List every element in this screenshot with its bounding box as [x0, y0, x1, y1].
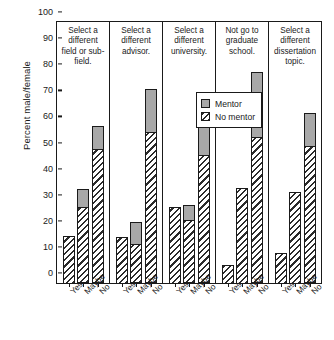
bar-segment-no-mentor: [289, 192, 301, 283]
x-tick-label: No: [97, 281, 112, 296]
bar-segment-no-mentor: [222, 265, 234, 283]
bar-segment-no-mentor: [92, 149, 104, 283]
x-tick: Maybe: [289, 283, 301, 325]
legend-label-mentor: Mentor: [215, 99, 242, 109]
x-axis-labels: YesMaybeNo: [269, 283, 321, 325]
y-tick-label: 90: [43, 33, 57, 43]
x-axis-labels: YesMaybeNo: [163, 283, 215, 325]
x-tick-label: No: [256, 281, 271, 296]
x-axis-labels: YesMaybeNo: [57, 283, 109, 325]
bar-no: [304, 113, 316, 283]
y-tick-label: 0: [48, 268, 57, 278]
x-tick: Maybe: [130, 283, 142, 325]
y-tick-label: 10: [43, 242, 57, 252]
bar-segment-mentor: [304, 113, 316, 146]
x-tick: Yes: [222, 283, 234, 325]
bar-yes: [169, 207, 181, 283]
panel-container: Select a different field or sub-field.Ye…: [57, 22, 321, 283]
x-tick: No: [198, 283, 210, 325]
bar-segment-mentor: [183, 205, 195, 221]
bar-segment-no-mentor: [169, 207, 181, 283]
bar-maybe: [236, 188, 248, 283]
x-axis-labels: YesMaybeNo: [110, 283, 162, 325]
y-tick-label: 100: [38, 7, 57, 17]
chart-panel: Select a different advisor.YesMaybeNo: [110, 22, 163, 283]
bar-segment-no-mentor: [183, 220, 195, 283]
bar-segment-no-mentor: [145, 132, 157, 283]
x-tick: Maybe: [236, 283, 248, 325]
bar-segment-mentor: [92, 126, 104, 148]
chart-panel: Select a different university.YesMaybeNo: [163, 22, 216, 283]
bar-segment-no-mentor: [198, 155, 210, 283]
bar-group: YesMaybeNo: [110, 22, 162, 283]
x-axis-labels: YesMaybeNo: [216, 283, 268, 325]
legend-label-no-mentor: No mentor: [215, 112, 255, 122]
plot-area: 0102030405060708090100 Select a differen…: [56, 21, 322, 284]
bar-segment-mentor: [145, 89, 157, 132]
bar-segment-no-mentor: [77, 207, 89, 283]
y-tick-label: 80: [43, 59, 57, 69]
bar-segment-no-mentor: [63, 236, 75, 283]
chart-figure: Percent male/female 01020304050607080901…: [0, 0, 334, 340]
x-tick: Yes: [116, 283, 128, 325]
bar-segment-no-mentor: [130, 244, 142, 283]
y-axis-label: Percent male/female: [21, 31, 32, 181]
chart-panel: Not go to graduate school.YesMaybeNo: [216, 22, 269, 283]
y-tick-label: 60: [43, 111, 57, 121]
bar-yes: [275, 253, 287, 283]
x-tick: Yes: [275, 283, 287, 325]
y-tick-label: 20: [43, 216, 57, 226]
chart-panel: Select a different field or sub-field.Ye…: [57, 22, 110, 283]
x-tick: Yes: [63, 283, 75, 325]
x-tick-label: No: [309, 281, 324, 296]
bar-no: [145, 89, 157, 283]
bar-group: YesMaybeNo: [57, 22, 109, 283]
chart-legend: Mentor No mentor: [196, 92, 262, 128]
bar-segment-no-mentor: [275, 253, 287, 283]
bar-maybe: [77, 189, 89, 283]
bar-maybe: [130, 222, 142, 283]
legend-swatch-mentor-icon: [201, 99, 210, 108]
bar-group: YesMaybeNo: [216, 22, 268, 283]
x-tick: Yes: [169, 283, 181, 325]
y-tick-label: 50: [43, 138, 57, 148]
bar-group: YesMaybeNo: [269, 22, 321, 283]
x-tick: No: [92, 283, 104, 325]
x-tick: No: [304, 283, 316, 325]
x-tick: No: [145, 283, 157, 325]
x-tick-label: No: [203, 281, 218, 296]
bar-segment-no-mentor: [304, 146, 316, 283]
bar-segment-mentor: [77, 189, 89, 207]
bar-segment-no-mentor: [236, 188, 248, 283]
x-tick: Maybe: [77, 283, 89, 325]
y-tick-label: 70: [43, 85, 57, 95]
bar-maybe: [289, 192, 301, 283]
x-tick-label: No: [150, 281, 165, 296]
legend-swatch-no-mentor-icon: [201, 112, 210, 121]
bar-yes: [222, 265, 234, 283]
bar-segment-no-mentor: [116, 237, 128, 283]
bar-maybe: [183, 205, 195, 283]
legend-item-mentor: Mentor: [201, 97, 255, 110]
bar-yes: [116, 237, 128, 283]
bar-group: YesMaybeNo: [163, 22, 215, 283]
y-tick-label: 40: [43, 164, 57, 174]
x-tick: No: [251, 283, 263, 325]
bar-no: [92, 126, 104, 283]
bar-segment-no-mentor: [251, 137, 263, 283]
y-tick-label: 30: [43, 190, 57, 200]
x-tick: Maybe: [183, 283, 195, 325]
bar-no: [198, 120, 210, 283]
bar-yes: [63, 236, 75, 283]
chart-panel: Select a different dissertation topic.Ye…: [269, 22, 321, 283]
bar-segment-mentor: [130, 222, 142, 244]
legend-item-no-mentor: No mentor: [201, 110, 255, 123]
